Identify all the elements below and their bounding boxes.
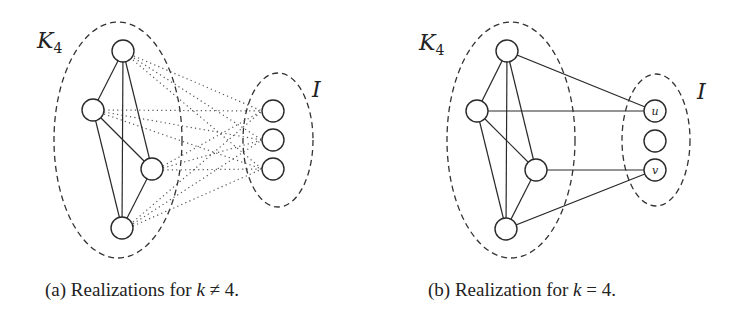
caption-b-text: (b) Realization for (428, 279, 573, 300)
independent-node (262, 158, 284, 180)
caption-a-text: (a) Realizations for (45, 279, 196, 300)
node-u-label: u (651, 105, 658, 118)
figure-b: u v K4 I (418, 22, 707, 258)
node-v-label: v (652, 164, 659, 177)
k4-label-b: K4 (418, 30, 444, 58)
caption-a: (a) Realizations for k ≠ 4. (45, 279, 239, 301)
caption-b: (b) Realization for k = 4. (428, 279, 616, 301)
independent-node (644, 130, 666, 152)
k4-node (466, 100, 488, 122)
k4-node (496, 40, 518, 62)
k4-node (111, 217, 133, 239)
k4-edges-b (477, 51, 536, 229)
independent-set-label-b: I (696, 79, 707, 104)
independent-node (262, 129, 284, 151)
caption-a-variable: k (196, 279, 204, 300)
k4-edges-a (93, 51, 152, 228)
independent-node (262, 100, 284, 122)
k4-node (82, 99, 104, 121)
independent-set-label-a: I (311, 77, 322, 102)
caption-a-relation: ≠ 4. (205, 279, 239, 300)
figure-canvas: K4 I u v (0, 0, 735, 315)
k4-node (141, 158, 163, 180)
caption-b-variable: k (573, 279, 581, 300)
figure-a: K4 I (36, 22, 322, 258)
k4-node (525, 159, 547, 181)
dotted-edges-a (104, 56, 262, 226)
independent-nodes-b: u v (644, 100, 666, 181)
independent-nodes-a (262, 100, 284, 180)
k4-label-a: K4 (36, 28, 62, 56)
k4-node (112, 40, 134, 62)
caption-b-relation: = 4. (582, 279, 616, 300)
k4-node (495, 218, 517, 240)
